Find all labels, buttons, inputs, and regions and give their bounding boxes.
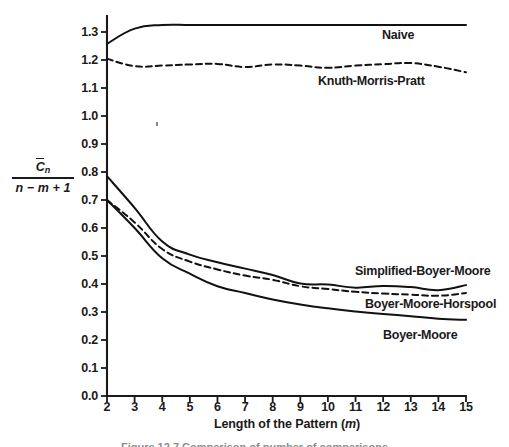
series-label-knuth-morris-pratt: Knuth-Morris-Pratt — [318, 74, 425, 88]
scan-artifact-speck — [156, 122, 158, 126]
y-axis-tick-label: 0.9 — [64, 138, 98, 150]
y-axis-tick-label: 0.2 — [64, 334, 98, 346]
series-label-boyer-moore: Boyer-Moore — [383, 328, 457, 342]
x-axis-title-close: ) — [356, 417, 360, 431]
x-axis-title: Length of the Pattern (m) — [107, 417, 467, 431]
chart-figure: 1.31.21.11.00.90.80.70.60.50.40.30.20.10… — [0, 0, 509, 447]
x-axis-tick-label: 2 — [94, 400, 120, 414]
x-axis-title-text: Length of the Pattern ( — [214, 417, 345, 431]
x-axis-tick-label: 6 — [204, 400, 230, 414]
c-bar-symbol: C — [36, 160, 45, 174]
x-axis-tick-label: 9 — [287, 400, 313, 414]
series-label-naive: Naive — [382, 28, 414, 42]
x-axis-tick-label: 5 — [177, 400, 203, 414]
y-axis-tick-label: 0.7 — [64, 194, 98, 206]
y-axis-tick-label: 1.2 — [64, 54, 98, 66]
x-axis-tick-label: 3 — [122, 400, 148, 414]
y-axis-title: Cn n − m + 1 — [12, 160, 74, 195]
series-label-simplified-boyer-moore: Simplified-Boyer-Moore — [355, 264, 491, 278]
x-axis-tick-label: 11 — [343, 400, 369, 414]
fraction-bar — [12, 177, 74, 179]
figure-caption: Figure 12.7 Comparison of number of comp… — [0, 441, 509, 447]
x-axis-tick-label: 13 — [398, 400, 424, 414]
x-axis-tick-label: 4 — [149, 400, 175, 414]
y-axis-tick-label: 1.3 — [64, 26, 98, 38]
y-axis-tick-label: 0.0 — [64, 390, 98, 402]
y-axis-denominator: n − m + 1 — [12, 181, 74, 195]
x-axis-tick-label: 7 — [232, 400, 258, 414]
x-axis-tick-label: 10 — [315, 400, 341, 414]
x-axis-tick-label: 15 — [453, 400, 479, 414]
series-line-knuth-morris-pratt — [107, 59, 466, 73]
x-axis-tick-label: 8 — [260, 400, 286, 414]
y-axis-tick-label: 0.3 — [64, 306, 98, 318]
y-axis-tick-label: 0.4 — [64, 278, 98, 290]
x-axis-tick-label: 14 — [425, 400, 451, 414]
x-axis-title-variable: m — [345, 417, 356, 431]
y-axis-tick-label: 1.0 — [64, 110, 98, 122]
c-bar-subscript: n — [45, 165, 51, 175]
y-axis-tick-label: 1.1 — [64, 82, 98, 94]
y-axis-tick-label: 0.5 — [64, 250, 98, 262]
series-label-boyer-moore-horspool: Boyer-Moore-Horspool — [365, 297, 496, 311]
x-axis-tick-label: 12 — [370, 400, 396, 414]
series-line-boyer-moore-horspool — [107, 200, 466, 296]
y-axis-tick-label: 0.1 — [64, 362, 98, 374]
y-axis-tick-label: 0.6 — [64, 222, 98, 234]
y-axis-numerator: Cn — [12, 160, 74, 176]
